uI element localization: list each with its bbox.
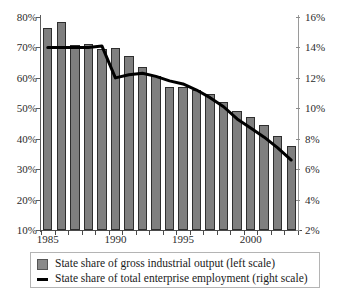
left-axis-tick-label: 60%: [17, 73, 37, 84]
legend-label-bars: State share of gross industrial output (…: [55, 258, 275, 270]
employment-line-path: [48, 46, 291, 160]
x-axis-tick-mark: [230, 231, 231, 235]
right-axis-tick-label: 6%: [305, 164, 320, 175]
right-axis-tick-label: 16%: [305, 12, 325, 23]
x-axis-tick-mark: [95, 231, 96, 235]
left-axis-tick-mark: [36, 230, 40, 231]
legend-item-line: State share of total enterprise employme…: [37, 272, 313, 286]
x-axis-tick-mark: [136, 231, 137, 235]
left-axis-tick-label: 20%: [17, 195, 37, 206]
legend-label-line: State share of total enterprise employme…: [55, 273, 308, 285]
line-series: [41, 17, 298, 230]
x-axis-tick-mark: [149, 231, 150, 235]
x-axis-tick-label: 1990: [104, 234, 126, 245]
x-axis-tick-mark: [68, 231, 69, 235]
x-axis-tick-label: 2000: [240, 234, 262, 245]
x-axis-tick-mark: [271, 231, 272, 235]
x-axis-tick-mark: [203, 231, 204, 235]
right-axis-tick-label: 12%: [305, 73, 325, 84]
x-axis-tick-mark: [217, 231, 218, 235]
chart-figure: 10%20%30%40%50%60%70%80% 2%4%6%8%10%12%1…: [0, 0, 350, 304]
x-axis-tick-mark: [163, 231, 164, 235]
left-axis-tick-label: 80%: [17, 12, 37, 23]
right-axis-tick-label: 2%: [305, 225, 320, 236]
bar-swatch-icon: [37, 259, 48, 270]
left-axis-tick-label: 30%: [17, 164, 37, 175]
legend-item-bars: State share of gross industrial output (…: [37, 257, 313, 271]
x-axis-line: [38, 230, 302, 231]
right-axis-tick-label: 14%: [305, 42, 325, 53]
right-axis-tick-label: 8%: [305, 134, 320, 145]
x-axis-tick-label: 1985: [37, 234, 59, 245]
right-axis-tick-label: 4%: [305, 195, 320, 206]
left-axis-tick-mark: [36, 47, 40, 48]
line-swatch-icon: [37, 278, 48, 281]
right-axis-tick-label: 10%: [305, 103, 325, 114]
left-axis-tick-mark: [36, 169, 40, 170]
left-axis-tick-label: 70%: [17, 42, 37, 53]
left-axis-tick-label: 10%: [17, 225, 37, 236]
left-axis-tick-mark: [36, 78, 40, 79]
plot-area: [41, 17, 298, 230]
left-axis-tick-mark: [36, 139, 40, 140]
legend: State share of gross industrial output (…: [30, 252, 320, 288]
x-axis-tick-mark: [298, 231, 299, 235]
left-axis-tick-label: 40%: [17, 134, 37, 145]
x-axis-tick-mark: [284, 231, 285, 235]
left-axis-tick-mark: [36, 17, 40, 18]
left-axis-tick-mark: [36, 108, 40, 109]
x-axis-tick-mark: [82, 231, 83, 235]
left-axis-tick-mark: [36, 200, 40, 201]
left-axis-tick-label: 50%: [17, 103, 37, 114]
x-axis-tick-label: 1995: [172, 234, 194, 245]
